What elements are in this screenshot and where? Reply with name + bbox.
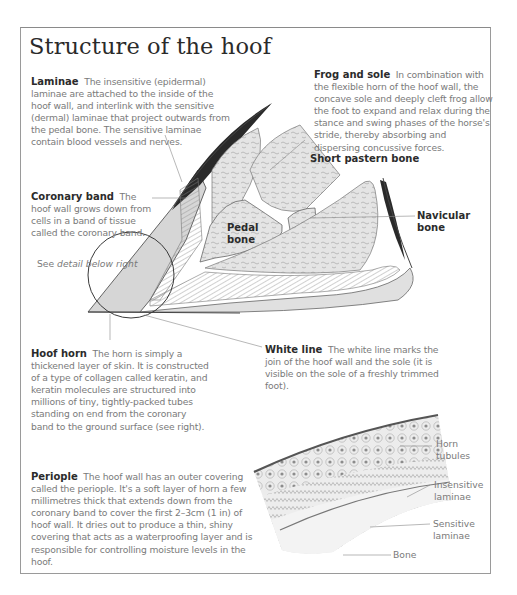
frog-and-sole-heading: Frog and sole (314, 69, 390, 80)
white-line-description: White line The white line marks the join… (265, 344, 455, 392)
navicular-bone-label: Navicular bone (417, 210, 470, 234)
see-detail-note: See detail below right (37, 258, 138, 270)
periople-heading: Periople (31, 471, 78, 482)
frog-and-sole-description: Frog and sole In combination with the fl… (314, 69, 494, 154)
horn-tubules-label: Horn tubules (436, 438, 470, 462)
white-line-heading: White line (265, 344, 322, 355)
sensitive-laminae-label: Sensitive laminae (433, 518, 475, 542)
bone-label: Bone (393, 549, 416, 561)
short-pastern-bone-label: Short pastern bone (310, 153, 419, 165)
periople-description: Periople The hoof wall has an outer cove… (31, 471, 263, 568)
pedal-bone-label: Pedal bone (227, 222, 258, 246)
hoof-horn-description: Hoof horn The horn is simply a thickened… (31, 348, 211, 433)
coronary-band-heading: Coronary band (31, 191, 114, 202)
insensitive-laminae-label: Insensitive laminae (434, 479, 483, 503)
coronary-band-description: Coronary band The hoof wall grows down f… (31, 191, 153, 239)
laminae-description: Laminae The insensitive (epidermal) lami… (31, 76, 231, 149)
laminae-heading: Laminae (31, 76, 79, 87)
hoof-horn-heading: Hoof horn (31, 348, 87, 359)
